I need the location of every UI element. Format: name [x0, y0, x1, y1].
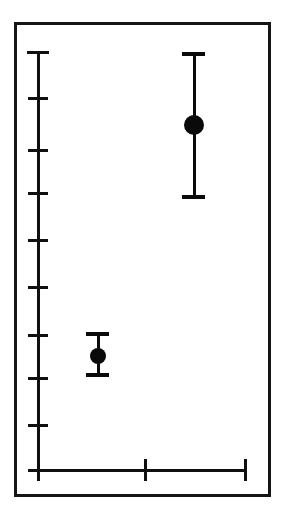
- errorbar-cap-lower-group-1: [86, 373, 109, 377]
- y-axis-tick-0: [27, 51, 49, 54]
- x-axis-tick-1: [144, 459, 147, 481]
- errorbar-cap-lower-group-2: [182, 195, 205, 199]
- y-axis-tick-8: [28, 424, 48, 427]
- plot-surface: [0, 0, 285, 519]
- y-axis-tick-1: [28, 97, 48, 100]
- y-axis-tick-3: [28, 192, 48, 195]
- y-axis-tick-6: [28, 334, 48, 337]
- y-axis-tick-4: [28, 239, 48, 242]
- y-axis-tick-5: [28, 286, 48, 289]
- x-axis-tick-2: [244, 459, 247, 481]
- y-axis-tick-7: [28, 377, 48, 380]
- y-axis-tick-2: [28, 149, 48, 152]
- errorbar-cap-upper-group-2: [182, 52, 205, 56]
- data-point-group-2[interactable]: [184, 115, 204, 135]
- x-axis-line: [38, 469, 245, 472]
- figure-root: [0, 0, 285, 519]
- errorbar-cap-upper-group-1: [86, 332, 109, 336]
- x-axis-tick-0: [37, 459, 40, 481]
- y-axis-line: [37, 52, 40, 470]
- data-point-group-1[interactable]: [90, 348, 106, 364]
